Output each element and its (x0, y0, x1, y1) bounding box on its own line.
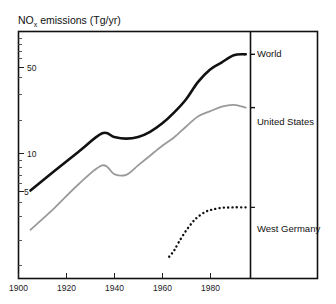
axis-title-rest: emissions (Tg/yr) (37, 14, 120, 26)
y-tick-label-5: 5 (24, 187, 29, 197)
chart-background (0, 0, 336, 304)
x-tick-label-1940: 1940 (105, 283, 124, 293)
legend-label-world: World (257, 48, 282, 59)
y-tick-label-10: 10 (27, 149, 37, 159)
legend-label-united-states: United States (257, 116, 314, 127)
x-tick-label-1960: 1960 (153, 283, 172, 293)
chart-figure: NOx emissions (Tg/yr) (0, 0, 336, 304)
axis-title: NOx emissions (Tg/yr) (18, 14, 121, 28)
x-tick-label-1900: 1900 (9, 283, 28, 293)
legend-label-west-germany: West Germany (257, 223, 320, 234)
axis-title-main: NO (18, 14, 34, 26)
y-tick-label-50: 50 (27, 63, 37, 73)
nox-emissions-line-chart: NOx emissions (Tg/yr) (0, 0, 336, 304)
x-tick-label-1980: 1980 (201, 283, 220, 293)
x-tick-label-1920: 1920 (57, 283, 76, 293)
